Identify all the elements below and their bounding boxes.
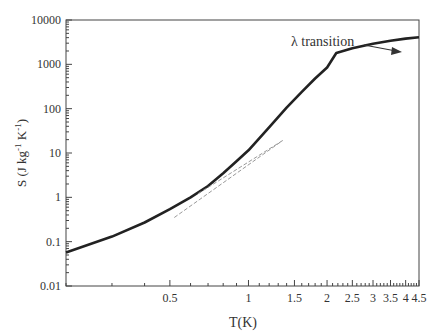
y-axis-label: S (J kg-1 K-1) (13, 119, 29, 187)
x-axis-label: T(K) (229, 315, 257, 331)
x-tick-label: 4.5 (412, 291, 427, 305)
y-tick-label: 0.01 (40, 279, 61, 293)
plot-frame (66, 20, 419, 286)
x-tick-label: 2 (324, 291, 330, 305)
x-tick-label: 0.5 (162, 291, 177, 305)
lambda-transition-label: λ transition (291, 34, 354, 49)
y-tick-label: 100 (43, 102, 61, 116)
asymptote-dashed-line (198, 141, 283, 194)
x-tick-label: 1 (245, 291, 251, 305)
chart: 0.010.1110100100010000 0.511.522.533.544… (0, 0, 439, 334)
plot-area: 0.010.1110100100010000 0.511.522.533.544… (0, 0, 439, 334)
y-tick-label: 1000 (37, 57, 61, 71)
x-tick-label: 2.5 (345, 291, 360, 305)
annotation-arrow-line (364, 45, 396, 51)
x-tick-label: 4 (403, 291, 409, 305)
x-axis: 0.511.522.533.544.5 (66, 280, 427, 305)
plot-border (66, 20, 419, 286)
annotation-arrowhead-icon (391, 47, 402, 55)
entropy-curve (66, 37, 419, 252)
x-tick-label: 3.5 (383, 291, 398, 305)
x-tick-label: 3 (370, 291, 376, 305)
y-tick-label: 0.1 (46, 235, 61, 249)
y-tick-label: 10 (49, 146, 61, 160)
series-group (66, 37, 419, 252)
y-tick-label: 1 (55, 190, 61, 204)
x-tick-label: 1.5 (287, 291, 302, 305)
y-tick-label: 10000 (31, 13, 61, 27)
annotation-group: λ transition (291, 34, 402, 55)
asymptote-dashed-line (174, 141, 282, 218)
